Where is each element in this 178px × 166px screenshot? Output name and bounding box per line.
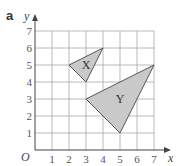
- axes: [32, 14, 171, 153]
- coordinate-grid-chart: a XY 12345671234567 y x O: [0, 0, 178, 166]
- origin-label: O: [21, 150, 30, 164]
- triangles: XY: [69, 48, 154, 133]
- triangle-label-y: Y: [116, 92, 125, 106]
- y-axis-arrow-icon: [32, 14, 38, 21]
- x-tick-label: 3: [83, 153, 89, 165]
- x-tick-label: 7: [151, 153, 157, 165]
- x-tick-label: 4: [100, 153, 106, 165]
- x-tick-label: 5: [117, 153, 123, 165]
- y-tick-label: 4: [27, 76, 33, 88]
- y-tick-label: 5: [27, 59, 33, 71]
- y-tick-label: 2: [27, 110, 33, 122]
- part-label: a: [6, 8, 14, 23]
- triangle-label-x: X: [82, 58, 91, 72]
- x-axis-label: x: [167, 151, 174, 165]
- y-tick-label: 7: [27, 25, 33, 37]
- x-tick-label: 6: [134, 153, 140, 165]
- y-tick-label: 6: [27, 42, 33, 54]
- x-tick-label: 2: [66, 153, 72, 165]
- y-axis-label: y: [23, 9, 30, 23]
- x-tick-label: 1: [49, 153, 55, 165]
- y-tick-label: 3: [27, 93, 33, 105]
- y-tick-label: 1: [27, 127, 33, 139]
